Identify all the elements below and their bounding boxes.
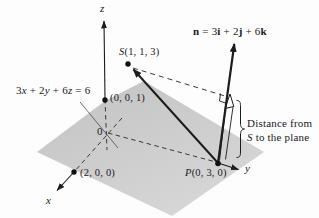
normal-vector-label: n = 3i + 2j + 6k: [193, 26, 267, 37]
eq-coef-2: + 2: [27, 84, 45, 96]
nvec-p1: + 2: [221, 25, 239, 37]
point-p-label: P(0, 3, 0): [185, 168, 227, 179]
x-intercept-label: (2, 0, 0): [80, 168, 115, 179]
point-p-name: P: [185, 167, 192, 178]
y-axis-label: y: [245, 163, 250, 174]
figure-distance-point-to-plane: z x y 0 S(1, 1, 3) (0, 0, 1) (2, 0, 0) P…: [0, 0, 319, 218]
z-axis-line: [104, 21, 105, 99]
z-intercept-label: (0, 0, 1): [110, 93, 145, 104]
distance-annotation: Distance from S to the plane: [247, 117, 312, 144]
z-axis-label: z: [100, 3, 104, 14]
diagram-canvas: [0, 0, 319, 218]
point-dot-z-intercept: [102, 97, 107, 102]
origin-label: 0: [97, 126, 103, 137]
distance-line-1: Distance from: [247, 117, 312, 131]
nvec-k: k: [261, 25, 267, 37]
nvec-eq: = 3: [199, 25, 217, 37]
nvec-p2: + 6: [243, 25, 261, 37]
point-dot-p: [215, 161, 221, 167]
distance-line2-rest: to the plane: [253, 131, 310, 143]
point-s-coords: (1, 1, 3): [124, 46, 159, 57]
point-dot-x-intercept: [71, 169, 76, 174]
plane-equation-label: 3x + 2y + 6z = 6: [16, 85, 90, 96]
point-dot-s: [125, 61, 130, 66]
eq-rhs: = 6: [72, 84, 90, 96]
point-p-coords: (0, 3, 0): [192, 167, 227, 178]
eq-coef-3: + 6: [50, 84, 68, 96]
x-axis-label: x: [46, 195, 51, 206]
point-s-label: S(1, 1, 3): [119, 47, 160, 58]
x-axis-line: [57, 172, 74, 191]
distance-line-2: S to the plane: [247, 131, 312, 145]
